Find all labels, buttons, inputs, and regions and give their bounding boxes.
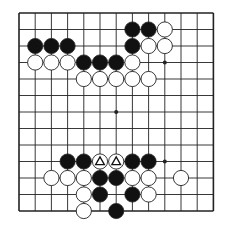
black-stone [109, 170, 124, 185]
black-stone [141, 154, 156, 169]
white-stone [173, 170, 188, 185]
white-stone [60, 55, 75, 70]
black-stone [125, 38, 140, 53]
white-stone [44, 170, 59, 185]
star-point [163, 160, 167, 164]
white-stone [125, 71, 140, 86]
black-stone [92, 55, 107, 70]
black-stone [109, 55, 124, 70]
black-stone [109, 203, 124, 218]
white-stone [76, 203, 91, 218]
black-stone [125, 154, 140, 169]
black-stone [60, 154, 75, 169]
white-stone [157, 22, 172, 37]
white-stone [92, 71, 107, 86]
white-stone [141, 38, 156, 53]
white-stone [76, 71, 91, 86]
white-stone [125, 55, 140, 70]
white-stone [141, 170, 156, 185]
black-stone [125, 22, 140, 37]
star-point [114, 110, 118, 114]
white-stone [157, 38, 172, 53]
go-board[interactable] [0, 0, 228, 237]
black-stone [60, 38, 75, 53]
star-point [163, 61, 167, 65]
black-stone [92, 170, 107, 185]
white-stone [44, 55, 59, 70]
black-stone [125, 187, 140, 202]
white-stone [76, 170, 91, 185]
white-stone [125, 170, 140, 185]
white-stone [141, 71, 156, 86]
white-stone [60, 170, 75, 185]
white-stone [141, 187, 156, 202]
white-stone [76, 187, 91, 202]
white-stone [28, 55, 43, 70]
black-stone [141, 22, 156, 37]
black-stone [92, 187, 107, 202]
black-stone [28, 38, 43, 53]
black-stone [76, 154, 91, 169]
white-stone [109, 71, 124, 86]
go-board-grid[interactable] [0, 0, 228, 237]
black-stone [76, 55, 91, 70]
black-stone [44, 38, 59, 53]
